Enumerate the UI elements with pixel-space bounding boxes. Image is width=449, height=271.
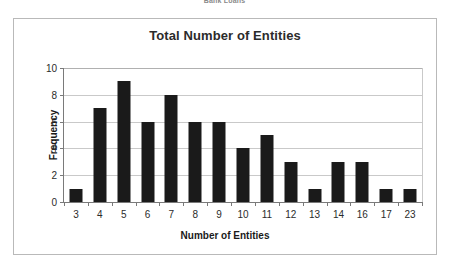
bar-slot	[279, 68, 303, 202]
bar	[165, 95, 178, 202]
x-tick-mark	[327, 202, 328, 206]
x-tick-label: 17	[381, 209, 392, 220]
y-tick-label: 10	[46, 63, 57, 74]
chart-frame: Total Number of Entities Frequency 02468…	[13, 18, 437, 255]
x-tick-label: 7	[169, 209, 175, 220]
bar	[69, 189, 82, 202]
x-tick-mark	[88, 202, 89, 206]
bar-slot	[136, 68, 160, 202]
x-tick-label: 10	[237, 209, 248, 220]
x-tick-mark	[159, 202, 160, 206]
bar	[236, 148, 249, 202]
bar-slot	[112, 68, 136, 202]
chart-title: Total Number of Entities	[14, 28, 436, 43]
y-tick-label: 0	[51, 197, 57, 208]
bar-slot	[64, 68, 88, 202]
bar	[356, 162, 369, 202]
x-tick-mark	[64, 202, 65, 206]
bar-slot	[303, 68, 327, 202]
bar-slot	[207, 68, 231, 202]
page-header-text: Bank Loans	[0, 0, 449, 4]
x-tick-mark	[374, 202, 375, 206]
x-axis-title: Number of Entities	[14, 230, 436, 241]
bar-slot	[350, 68, 374, 202]
x-tick-mark	[112, 202, 113, 206]
x-tick-mark	[136, 202, 137, 206]
bar-slot	[255, 68, 279, 202]
plot-area: 0246810 34567891011121314161723	[63, 68, 422, 203]
x-tick-label: 5	[121, 209, 127, 220]
bar-slot	[398, 68, 422, 202]
bar	[284, 162, 297, 202]
bar	[213, 122, 226, 202]
x-tick-label: 23	[405, 209, 416, 220]
x-tick-mark	[303, 202, 304, 206]
bar-slot	[183, 68, 207, 202]
bar-slot	[231, 68, 255, 202]
x-tick-label: 13	[309, 209, 320, 220]
bar	[260, 135, 273, 202]
x-tick-mark	[255, 202, 256, 206]
x-tick-mark	[279, 202, 280, 206]
x-tick-mark	[183, 202, 184, 206]
x-tick-label: 14	[333, 209, 344, 220]
bar-slot	[374, 68, 398, 202]
y-tick-label: 8	[51, 89, 57, 100]
y-tick-label: 6	[51, 116, 57, 127]
plot-right-edge	[422, 68, 423, 202]
bar	[189, 122, 202, 202]
bar	[117, 81, 130, 202]
bar-slot	[327, 68, 351, 202]
x-tick-label: 12	[285, 209, 296, 220]
x-axis-ticks: 34567891011121314161723	[64, 202, 422, 226]
bar	[380, 189, 393, 202]
bar	[332, 162, 345, 202]
x-tick-label: 16	[357, 209, 368, 220]
x-tick-label: 6	[145, 209, 151, 220]
bar	[141, 122, 154, 202]
bar-series	[64, 68, 422, 202]
bar	[308, 189, 321, 202]
x-tick-mark	[398, 202, 399, 206]
x-tick-mark	[350, 202, 351, 206]
x-tick-label: 9	[216, 209, 222, 220]
y-tick-label: 2	[51, 170, 57, 181]
y-tick-label: 4	[51, 143, 57, 154]
bar-slot	[159, 68, 183, 202]
x-tick-mark	[207, 202, 208, 206]
x-tick-label: 3	[73, 209, 79, 220]
x-tick-mark	[422, 202, 423, 206]
x-tick-label: 11	[262, 209, 272, 220]
x-tick-mark	[231, 202, 232, 206]
x-tick-label: 8	[192, 209, 198, 220]
x-tick-label: 4	[97, 209, 103, 220]
bar	[93, 108, 106, 202]
bar	[404, 189, 417, 202]
bar-slot	[88, 68, 112, 202]
